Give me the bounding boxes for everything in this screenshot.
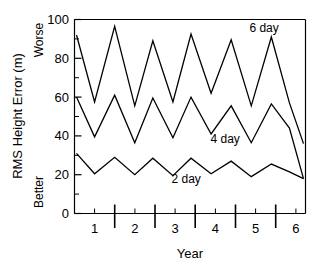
y-tick-label-40: 40 bbox=[55, 128, 69, 143]
chart-figure: 0 20 40 60 80 100 1 2 3 4 5 bbox=[0, 0, 322, 269]
rms-height-error-line-chart: 0 20 40 60 80 100 1 2 3 4 5 bbox=[0, 0, 322, 269]
y-tick-label-20: 20 bbox=[55, 167, 69, 182]
series-line-6-day bbox=[77, 26, 304, 143]
y-axis-better-label: Better bbox=[32, 176, 46, 208]
y-tick-label-80: 80 bbox=[55, 51, 69, 66]
series-label-2-day: 2 day bbox=[172, 172, 201, 186]
x-axis-title: Year bbox=[177, 246, 204, 261]
series-line-4-day bbox=[77, 95, 304, 178]
data-series-group bbox=[77, 26, 304, 178]
y-tick-label-0: 0 bbox=[62, 206, 69, 221]
x-tick-label-3: 3 bbox=[171, 221, 178, 236]
x-axis-ticks bbox=[95, 205, 296, 229]
series-label-6-day: 6 day bbox=[249, 21, 278, 35]
y-tick-label-60: 60 bbox=[55, 90, 69, 105]
x-tick-label-4: 4 bbox=[212, 221, 219, 236]
y-tick-label-100: 100 bbox=[47, 12, 69, 27]
x-tick-label-2: 2 bbox=[131, 221, 138, 236]
x-tick-label-1: 1 bbox=[91, 221, 98, 236]
x-tick-label-6: 6 bbox=[292, 221, 299, 236]
y-axis-worse-label: Worse bbox=[32, 22, 46, 57]
y-axis-title: RMS Height Error (m) bbox=[10, 53, 25, 179]
y-axis-tick-labels: 0 20 40 60 80 100 bbox=[47, 12, 69, 221]
series-label-4-day: 4 day bbox=[210, 132, 239, 146]
x-tick-label-5: 5 bbox=[252, 221, 259, 236]
